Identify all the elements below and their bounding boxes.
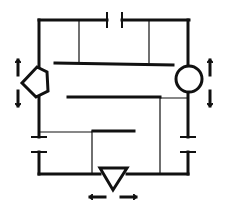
schematic-diagram (0, 0, 229, 215)
circle-node[interactable] (176, 66, 202, 92)
upper-bar (55, 63, 173, 65)
triangle-node[interactable] (100, 168, 127, 190)
pentagon-node[interactable] (22, 67, 48, 97)
